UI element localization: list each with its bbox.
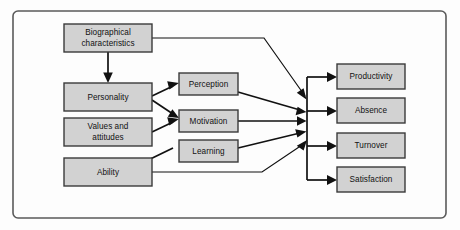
- node-satisfaction[interactable]: Satisfaction: [337, 167, 405, 192]
- node-values-and-attitudes[interactable]: Values and attitudes: [64, 118, 152, 146]
- node-motivation-label: Motivation: [190, 117, 228, 126]
- node-perception-label: Perception: [189, 80, 229, 89]
- node-absence[interactable]: Absence: [337, 98, 405, 123]
- node-values-label-line2: attitudes: [92, 133, 123, 142]
- node-motivation[interactable]: Motivation: [179, 110, 238, 132]
- flow-diagram: Biographical characteristics Personality…: [0, 0, 460, 230]
- node-absence-label: Absence: [355, 106, 388, 115]
- node-ability[interactable]: Ability: [64, 158, 152, 186]
- node-learning-label: Learning: [192, 147, 225, 156]
- node-productivity-label: Productivity: [350, 72, 394, 81]
- node-learning[interactable]: Learning: [179, 140, 238, 162]
- node-biographical-characteristics[interactable]: Biographical characteristics: [64, 24, 152, 52]
- node-perception[interactable]: Perception: [179, 73, 238, 95]
- node-ability-label: Ability: [97, 168, 120, 177]
- node-turnover-label: Turnover: [355, 141, 388, 150]
- node-satisfaction-label: Satisfaction: [350, 175, 393, 184]
- node-biographical-label-line2: characteristics: [81, 39, 134, 48]
- diagram-canvas: Biographical characteristics Personality…: [0, 0, 460, 230]
- node-values-label-line1: Values and: [88, 122, 129, 131]
- node-biographical-label-line1: Biographical: [85, 28, 131, 37]
- node-productivity[interactable]: Productivity: [337, 64, 405, 89]
- node-personality[interactable]: Personality: [64, 83, 152, 111]
- node-personality-label: Personality: [87, 93, 129, 102]
- node-turnover[interactable]: Turnover: [337, 133, 405, 158]
